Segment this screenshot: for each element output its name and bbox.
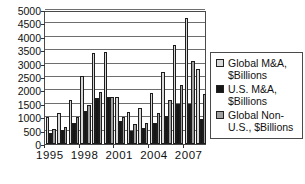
bar-2000-series-3 xyxy=(110,97,113,144)
x-axis-tick-2001 xyxy=(113,145,114,148)
x-axis-tick-2004 xyxy=(148,145,149,148)
x-axis-label-1998: 1998 xyxy=(68,149,102,161)
bar-1998-series-3 xyxy=(87,105,90,144)
bar-2003-series-3 xyxy=(145,123,148,144)
bar-1999-series-3 xyxy=(99,92,102,144)
y-axis-label-3000: 3000 xyxy=(0,60,41,70)
bar-2001-series-3 xyxy=(122,117,125,144)
y-axis-tick-5000 xyxy=(41,11,45,12)
legend-item-3: Global Non-U.S., $Billions xyxy=(216,110,299,133)
y-axis-tick-1000 xyxy=(41,118,45,119)
legend-label: U.S. M&A, $Billions xyxy=(228,84,299,107)
legend: Global M&A, $BillionsU.S. M&A, $Billions… xyxy=(210,52,303,139)
ma-activity-bar-chart: 0500100015002000250030003500400045005000… xyxy=(0,0,305,184)
x-axis-label-2007: 2007 xyxy=(172,149,206,161)
x-axis-label-2001: 2001 xyxy=(102,149,136,161)
x-axis-tick-1998 xyxy=(79,145,80,148)
legend-item-2: U.S. M&A, $Billions xyxy=(216,84,299,107)
legend-label: Global Non-U.S., $Billions xyxy=(228,110,299,133)
gridline-3500 xyxy=(45,49,205,50)
plot-area xyxy=(44,11,206,145)
y-axis-tick-3500 xyxy=(41,51,45,52)
bar-1996-series-3 xyxy=(64,127,67,144)
x-axis-tick-2007 xyxy=(183,145,184,148)
bar-2005-series-3 xyxy=(168,100,171,144)
bar-2004-series-3 xyxy=(157,113,160,144)
bar-1995-series-3 xyxy=(52,129,55,144)
y-axis-label-2000: 2000 xyxy=(0,86,41,96)
y-axis-tick-4500 xyxy=(41,24,45,25)
legend-swatch-icon xyxy=(216,59,224,67)
y-axis-label-5000: 5000 xyxy=(0,6,41,16)
bar-2006-series-3 xyxy=(180,85,183,144)
legend-swatch-icon xyxy=(216,85,224,93)
x-axis-label-2004: 2004 xyxy=(137,149,171,161)
y-axis-tick-0 xyxy=(41,145,45,146)
gridline-4000 xyxy=(45,36,205,37)
y-axis-tick-3000 xyxy=(41,65,45,66)
y-axis-label-4500: 4500 xyxy=(0,19,41,29)
gridline-4500 xyxy=(45,22,205,23)
y-axis-tick-2000 xyxy=(41,91,45,92)
gridline-3000 xyxy=(45,63,205,64)
legend-label: Global M&A, $Billions xyxy=(228,58,299,81)
x-axis-label-1995: 1995 xyxy=(33,149,67,161)
y-axis-label-1500: 1500 xyxy=(0,100,41,110)
y-axis-label-2500: 2500 xyxy=(0,73,41,83)
y-axis-tick-4000 xyxy=(41,38,45,39)
bar-2002-series-3 xyxy=(133,124,136,144)
y-axis-label-500: 500 xyxy=(0,127,41,137)
bar-2007-series-3 xyxy=(191,61,194,144)
gridline-2500 xyxy=(45,76,205,77)
y-axis-label-4000: 4000 xyxy=(0,33,41,43)
legend-item-1: Global M&A, $Billions xyxy=(216,58,299,81)
y-axis-tick-1500 xyxy=(41,105,45,106)
legend-swatch-icon xyxy=(216,111,224,119)
y-axis-tick-2500 xyxy=(41,78,45,79)
y-axis-tick-500 xyxy=(41,132,45,133)
y-axis-label-3500: 3500 xyxy=(0,46,41,56)
bar-1997-series-3 xyxy=(76,117,79,144)
bar-2008-series-3 xyxy=(203,94,206,144)
gridline-5000 xyxy=(45,9,205,10)
y-axis-label-1000: 1000 xyxy=(0,113,41,123)
